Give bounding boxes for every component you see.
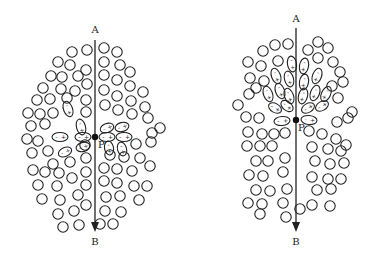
molecule-circle — [258, 46, 268, 56]
negative-charge-icon: - — [290, 56, 293, 63]
molecule-circle — [270, 40, 280, 50]
molecule-circle — [325, 159, 335, 169]
unpolarized-molecules — [233, 37, 357, 222]
molecule-circle — [317, 129, 327, 139]
polarized-molecule: +- — [310, 67, 324, 85]
molecule-circle — [135, 153, 145, 163]
molecule-circle — [127, 109, 137, 119]
molecule-circle — [53, 57, 63, 67]
molecule-circle — [243, 198, 253, 208]
molecule-circle — [112, 164, 122, 174]
negative-charge-icon: - — [286, 71, 290, 78]
molecule-circle — [280, 128, 290, 138]
molecule-circle — [282, 184, 292, 194]
molecule-circle — [99, 70, 109, 80]
polarized-molecules: +-+-+-+-+-+-+-+-+-+-+-+-+-+-+-+-+-+- — [261, 55, 333, 126]
negative-charge-icon: - — [102, 125, 106, 132]
molecule-circle — [307, 200, 317, 210]
molecule-circle — [113, 105, 123, 115]
molecule-circle — [126, 96, 136, 106]
molecule-circle — [256, 61, 266, 71]
molecule-circle — [127, 166, 137, 176]
molecule-circle — [28, 165, 38, 175]
molecule-circle — [313, 37, 323, 47]
molecule-circle — [343, 113, 353, 123]
molecule-circle — [100, 100, 110, 110]
molecule-circle — [323, 174, 333, 184]
molecule-circle — [244, 170, 254, 180]
molecule-circle — [323, 43, 333, 53]
polarized-molecule: +- — [52, 133, 68, 142]
positive-charge-icon: + — [283, 116, 289, 123]
molecule-circle — [255, 209, 265, 219]
molecule-circle — [138, 87, 148, 97]
molecule-circle — [347, 107, 357, 117]
molecule-circle — [65, 60, 75, 70]
molecule-circle — [67, 47, 77, 57]
molecule-circle — [46, 71, 56, 81]
molecule-circle — [265, 186, 275, 196]
molecule-circle — [53, 209, 63, 219]
polarized-molecule: +- — [283, 70, 296, 88]
molecule-circle — [81, 167, 91, 177]
positive-charge-icon: + — [289, 63, 295, 71]
molecule-circle — [145, 161, 155, 171]
positive-charge-icon: + — [265, 93, 272, 101]
label-a: A — [90, 24, 99, 35]
molecule-circle — [325, 201, 335, 211]
positive-charge-icon: + — [61, 133, 66, 140]
molecule-circle — [142, 181, 152, 191]
molecule-circle — [81, 180, 91, 190]
molecule-circle — [56, 84, 66, 94]
molecule-circle — [37, 194, 47, 204]
molecule-circle — [33, 136, 43, 146]
polarized-molecule: +- — [269, 67, 283, 85]
molecule-circle — [57, 72, 67, 82]
polarized-molecule: +- — [261, 85, 275, 103]
molecule-circle — [40, 167, 50, 177]
molecule-circle — [54, 168, 64, 178]
molecule-circle — [245, 73, 255, 83]
positive-charge-icon: + — [286, 78, 293, 86]
polarized-molecule: +- — [114, 121, 130, 133]
molecule-circle — [303, 45, 313, 55]
molecule-circle — [67, 173, 77, 183]
molecule-circle — [255, 141, 265, 151]
molecule-circle — [257, 199, 267, 209]
polarized-molecule: +- — [75, 141, 91, 153]
molecule-circle — [112, 47, 122, 57]
molecule-circle — [74, 220, 84, 230]
positive-charge-icon: + — [65, 108, 72, 116]
molecule-circle — [26, 121, 36, 131]
molecule-circle — [43, 146, 53, 156]
negative-charge-icon: - — [303, 58, 306, 65]
negative-charge-icon: - — [78, 133, 80, 140]
negative-charge-icon: - — [119, 133, 121, 140]
molecule-circle — [332, 117, 342, 127]
arrow-head-icon — [91, 222, 99, 232]
molecule-circle — [244, 89, 254, 99]
molecule-circle — [233, 100, 243, 110]
molecule-circle — [99, 85, 109, 95]
diagram-canvas: +-+-+-+-+-+-+-+-+-+-+-+- A B P +-+-+-+-+… — [0, 0, 365, 259]
molecule-circle — [52, 181, 62, 191]
molecule-circle — [331, 134, 341, 144]
molecule-circle — [81, 200, 91, 210]
molecule-circle — [338, 77, 348, 87]
molecule-circle — [281, 212, 291, 222]
molecule-circle — [27, 148, 37, 158]
molecule-circle — [258, 171, 268, 181]
molecule-circle — [82, 79, 92, 89]
polarized-molecule: +- — [297, 87, 310, 105]
molecule-circle — [278, 198, 288, 208]
positive-charge-icon: + — [310, 116, 316, 123]
molecule-circle — [116, 207, 126, 217]
molecule-circle — [22, 134, 32, 144]
polarized-molecule: +- — [300, 101, 317, 116]
molecule-circle — [333, 93, 343, 103]
positive-charge-icon: + — [108, 133, 113, 140]
molecule-circle — [257, 129, 267, 139]
molecule-circle — [112, 178, 122, 188]
molecule-circle — [112, 75, 122, 85]
molecule-circle — [278, 167, 288, 177]
